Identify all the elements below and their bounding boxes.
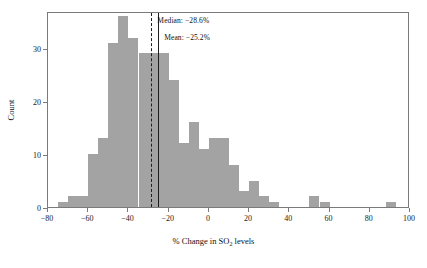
median-annotation-label: Median: −28.6%: [157, 16, 209, 25]
histogram-bar: [320, 202, 330, 207]
histogram-bar: [139, 53, 149, 207]
histogram-bar: [229, 165, 239, 207]
x-axis-title: % Change in SO2 levels: [0, 236, 427, 246]
x-tick-label: 20: [244, 214, 252, 223]
x-tick-mark: [409, 208, 410, 212]
histogram-bar: [199, 149, 209, 207]
x-tick-label: 40: [284, 214, 292, 223]
histogram-bar: [259, 196, 269, 207]
histogram-bar: [209, 138, 219, 207]
x-tick-mark: [87, 208, 88, 212]
plot-area: Median: −28.6%Mean: −25.2%: [47, 12, 409, 208]
x-axis-title-prefix: % Change in SO: [173, 236, 230, 246]
histogram-bar: [78, 196, 88, 207]
histogram-bar: [249, 181, 259, 207]
x-axis: −80−60−40−20020406080100: [47, 208, 409, 232]
x-tick-mark: [329, 208, 330, 212]
histogram-bars: [48, 13, 408, 207]
x-tick-label: 60: [325, 214, 333, 223]
histogram-bar: [269, 202, 279, 207]
histogram-bar: [88, 154, 98, 207]
x-tick-label: 80: [365, 214, 373, 223]
histogram-bar: [149, 53, 159, 207]
histogram-bar: [309, 196, 319, 207]
x-tick-label: −40: [121, 214, 134, 223]
x-tick-mark: [248, 208, 249, 212]
x-tick-label: −20: [161, 214, 174, 223]
histogram-bar: [128, 38, 138, 208]
x-tick-label: −80: [41, 214, 54, 223]
x-tick-mark: [369, 208, 370, 212]
x-tick-mark: [127, 208, 128, 212]
y-axis: 0102030: [0, 0, 47, 208]
x-tick-label: −60: [81, 214, 94, 223]
median-reference-line: [151, 13, 152, 207]
y-tick-label: 30: [33, 45, 41, 54]
histogram-bar: [108, 43, 118, 207]
histogram-bar: [118, 16, 128, 207]
x-tick-mark: [208, 208, 209, 212]
histogram-bar: [169, 80, 179, 207]
histogram-bar: [58, 202, 68, 207]
y-tick-label: 10: [33, 151, 41, 160]
histogram-bar: [68, 196, 78, 207]
histogram-bar: [159, 53, 169, 207]
y-tick-label: 0: [37, 204, 41, 213]
mean-reference-line: [158, 13, 159, 207]
x-tick-mark: [288, 208, 289, 212]
mean-annotation-label: Mean: −25.2%: [164, 33, 210, 42]
histogram-bar: [98, 138, 108, 207]
histogram-bar: [239, 191, 249, 207]
histogram-bar: [386, 202, 396, 207]
y-tick-label: 20: [33, 98, 41, 107]
histogram-bar: [179, 143, 189, 207]
x-tick-mark: [168, 208, 169, 212]
x-axis-title-suffix: levels: [232, 236, 254, 246]
histogram-bar: [189, 122, 199, 207]
x-tick-label: 0: [206, 214, 210, 223]
histogram-bar: [219, 138, 229, 207]
histogram-figure: Count 0102030 Median: −28.6%Mean: −25.2%…: [0, 0, 427, 268]
x-tick-label: 100: [403, 214, 415, 223]
x-tick-mark: [47, 208, 48, 212]
